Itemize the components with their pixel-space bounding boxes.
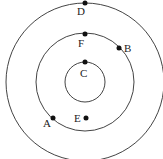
point-e-dot bbox=[84, 116, 89, 121]
point-c-dot bbox=[83, 60, 88, 65]
point-f-label: F bbox=[78, 37, 84, 49]
point-f: F bbox=[78, 32, 88, 50]
concentric-circles-diagram: D F B C A E bbox=[0, 0, 163, 159]
point-f-dot bbox=[83, 32, 88, 37]
point-a-dot bbox=[51, 116, 56, 121]
point-d-label: D bbox=[77, 5, 85, 17]
outer-circle bbox=[6, 3, 163, 159]
point-b-label: B bbox=[124, 42, 131, 54]
point-b-dot bbox=[117, 46, 122, 51]
point-b: B bbox=[117, 42, 132, 54]
point-e: E bbox=[74, 112, 89, 124]
point-a-label: A bbox=[43, 117, 51, 129]
point-a: A bbox=[43, 116, 56, 130]
point-e-label: E bbox=[74, 112, 81, 124]
point-c-label: C bbox=[80, 67, 87, 79]
